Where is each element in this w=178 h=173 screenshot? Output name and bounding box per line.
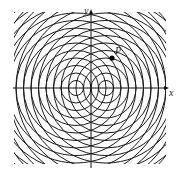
x-axis-label: x	[168, 87, 174, 98]
concentric-circles	[0, 0, 178, 173]
y-axis-arrow-icon	[89, 9, 93, 14]
point-p-marker	[109, 55, 114, 60]
y-axis-label: y	[83, 5, 89, 16]
diagram-canvas: x y P	[0, 0, 178, 173]
point-p-label: P	[114, 45, 121, 56]
